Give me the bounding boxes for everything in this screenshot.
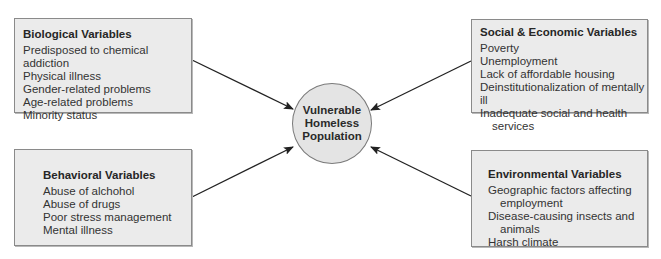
box-title: Biological Variables [23,28,191,40]
list-item: Abuse of drugs [43,198,191,211]
list-item: Age-related problems [23,96,191,109]
list-item: Deinstitutionalization of mentally ill [480,81,647,107]
environmental-variables-box: Environmental Variables Geographic facto… [471,150,648,247]
arrow-biological [192,60,293,109]
list-item: Geographic factors affecting employment [488,184,640,210]
box-title: Behavioral Variables [43,169,191,181]
vulnerable-homeless-population-node: Vulnerable Homeless Population [292,83,372,164]
list-item: Predisposed to chemical addiction [23,44,191,70]
box-title: Environmental Variables [488,168,647,180]
list-item: Poverty [480,42,647,55]
list-item: Poor stress management [43,211,191,224]
arrow-social [371,61,471,110]
list-item: Gender-related problems [23,83,191,96]
list-item: Disease-causing insects and animals [488,210,640,236]
list-item: Minority status [23,109,191,122]
list-item: Lack of affordable housing [480,68,647,81]
center-label-line: Vulnerable [302,104,361,117]
biological-variables-box: Biological Variables Predisposed to chem… [14,18,192,113]
arrow-environmental [371,147,471,196]
list-item: Harsh climate [488,236,647,249]
arrow-behavioral [192,147,293,197]
social-economic-variables-box: Social & Economic Variables Poverty Unem… [471,19,648,113]
behavioral-variables-box: Behavioral Variables Abuse of alchohol A… [14,149,192,246]
list-item: Unemployment [480,55,647,68]
center-label-line: Population [302,130,361,143]
list-item: Physical illness [23,70,191,83]
box-title: Social & Economic Variables [480,26,647,38]
list-item: Abuse of alchohol [43,185,191,198]
list-item: Inadequate social and health services [480,107,632,133]
list-item: Mental illness [43,224,191,237]
center-label-line: Homeless [302,117,361,130]
